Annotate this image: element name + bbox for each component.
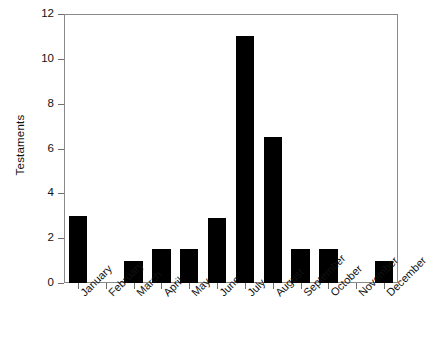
- bar-january: [69, 216, 87, 283]
- y-tick-label: 4: [48, 186, 54, 199]
- y-tick-label: 10: [41, 52, 54, 65]
- y-tick-label: 2: [48, 231, 54, 244]
- y-tick-label: 12: [41, 7, 54, 20]
- y-axis-title-label: Testaments: [14, 115, 26, 176]
- y-axis-title: Testaments: [10, 0, 30, 290]
- y-tick-label: 0: [48, 276, 54, 289]
- x-axis-ticks: JanuaryFebruaryMarchAprilMayJuneJulyAugu…: [64, 283, 398, 341]
- y-tick-label: 8: [48, 97, 54, 110]
- bar-august: [264, 137, 282, 283]
- bar-may: [180, 249, 198, 283]
- bar-june: [208, 218, 226, 283]
- bar-july: [236, 36, 254, 283]
- bars-layer: [64, 14, 398, 283]
- y-tick-label: 6: [48, 142, 54, 155]
